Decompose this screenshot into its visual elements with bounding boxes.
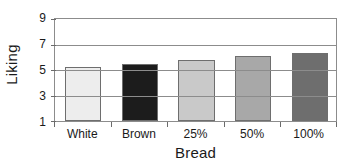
gridline	[55, 96, 336, 97]
gridline	[55, 45, 336, 46]
bar-chart: Liking 13579 WhiteBrown25%50%100% Bread	[0, 0, 355, 163]
y-axis-tick-mark	[51, 70, 56, 71]
y-axis-title: Liking	[0, 0, 22, 128]
y-axis-tick-label: 7	[39, 37, 46, 51]
y-axis-tick-label: 5	[39, 63, 46, 77]
bar	[122, 64, 158, 121]
y-axis-tick-label: 9	[39, 11, 46, 25]
x-axis-title: Bread	[54, 144, 337, 161]
x-axis-tick-labels: WhiteBrown25%50%100%	[54, 127, 337, 145]
bar	[65, 67, 101, 121]
x-axis-tick-label: 25%	[183, 127, 207, 141]
bar	[178, 60, 214, 121]
plot-area	[54, 18, 337, 122]
y-axis-tick-mark	[51, 19, 56, 20]
bar	[235, 56, 271, 121]
y-axis-title-text: Liking	[3, 44, 20, 84]
y-axis-tick-label: 3	[39, 89, 46, 103]
y-axis-tick-mark	[51, 45, 56, 46]
x-axis-tick-label: 50%	[240, 127, 264, 141]
x-axis-tick-label: Brown	[122, 127, 156, 141]
y-axis-tick-labels: 13579	[24, 12, 50, 124]
bar	[292, 53, 328, 121]
x-axis-tick-label: White	[67, 127, 98, 141]
y-axis-tick-label: 1	[39, 115, 46, 129]
gridline	[55, 70, 336, 71]
x-axis-tick-label: 100%	[293, 127, 324, 141]
y-axis-tick-mark	[51, 96, 56, 97]
